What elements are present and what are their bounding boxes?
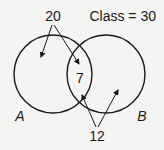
label-bottom-count: 12 [89, 128, 105, 144]
arrows-12 [82, 90, 118, 127]
label-intersection: 7 [76, 70, 84, 86]
label-class-total: Class = 30 [89, 8, 156, 24]
label-top-count: 20 [45, 8, 61, 24]
label-set-b: B [137, 108, 146, 124]
venn-diagram: 20 Class = 30 7 A B 12 [0, 0, 164, 150]
label-set-a: A [14, 108, 24, 124]
arrows-20 [41, 25, 79, 64]
